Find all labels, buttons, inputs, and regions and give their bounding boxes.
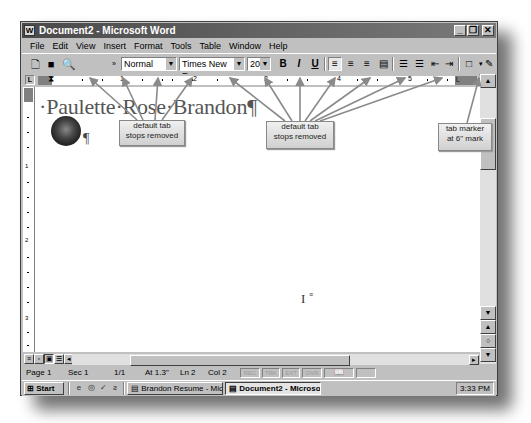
rose-logo-image[interactable] (51, 116, 81, 146)
menu-bar: File Edit View Insert Format Tools Table… (22, 39, 496, 53)
toolbar-separator (458, 57, 460, 71)
highlight-icon[interactable]: ✎ (482, 57, 496, 71)
scroll-right-button[interactable]: ▸ (469, 355, 479, 365)
menu-table[interactable]: Table (195, 39, 225, 53)
status-line: Ln 2 (180, 367, 196, 379)
status-page: Page 1 (26, 367, 51, 379)
justify-icon[interactable]: ▤ (376, 57, 390, 71)
name-heading[interactable]: ·Paulette·Rose·Brandon¶ (39, 94, 257, 120)
callout-default-tab-stops-1: default tab stops removed (119, 120, 185, 146)
horizontal-scroll-thumb[interactable] (130, 355, 350, 366)
ruler-number: 1 (120, 75, 124, 82)
ruler-tick (27, 332, 29, 333)
status-rec[interactable]: REC (240, 368, 260, 378)
title-bar: W Document2 - Microsoft Word _ ❐ ✕ (22, 23, 496, 38)
italic-button[interactable]: I (292, 57, 306, 71)
select-browse-object-button[interactable]: ○ (480, 334, 496, 348)
ruler-tick (427, 79, 428, 81)
previous-page-button[interactable]: ▲ (480, 320, 496, 334)
word-app-icon[interactable]: W (24, 25, 35, 36)
ruler-number: 3 (25, 315, 28, 321)
font-dropdown[interactable]: Times New Roman ▼ (179, 57, 245, 71)
align-center-icon[interactable]: ≡ (344, 57, 358, 71)
vertical-scrollbar[interactable]: ▲ ▼ ▲ ○ ▼ (480, 74, 496, 364)
ruler-tick (27, 197, 29, 198)
ruler-tick (447, 79, 448, 81)
ruler-tick (307, 79, 308, 81)
font-size-dropdown[interactable]: 20 ▼ (247, 57, 271, 71)
decrease-indent-icon[interactable]: ⇤ (428, 57, 442, 71)
new-document-icon[interactable]: 🗋 (28, 57, 42, 71)
close-button[interactable]: ✕ (482, 25, 494, 36)
taskbar-separator (123, 382, 125, 395)
document-page[interactable]: ·Paulette·Rose·Brandon¶ ¶ I ≡ (35, 87, 480, 352)
spelling-status-icon[interactable]: 📖 (324, 368, 354, 378)
font-size-value: 20 (250, 59, 260, 69)
web-layout-view-icon[interactable]: ▫ (34, 354, 44, 364)
numbering-icon[interactable]: ☰ (396, 57, 410, 71)
status-trk[interactable]: TRK (262, 368, 280, 378)
horizontal-ruler[interactable]: L ⧗ 1 2 3 4 5 └ (22, 74, 479, 86)
align-left-icon[interactable]: ≡ (328, 57, 342, 71)
ibeam-cursor-icon: I (301, 291, 305, 307)
indent-marker-icon[interactable]: ⧗ (48, 74, 56, 86)
status-ovr[interactable]: OVR (302, 368, 322, 378)
underline-button[interactable]: U (308, 57, 322, 71)
ruler-tick (27, 272, 29, 273)
horizontal-scrollbar[interactable]: ▸ (72, 354, 479, 365)
internet-explorer-icon[interactable]: e (74, 383, 84, 393)
ruler-tick (27, 182, 29, 183)
outline-view-icon[interactable]: ☰ (54, 354, 64, 364)
restore-button[interactable]: ❐ (467, 25, 479, 36)
toolbar-options-chevron-icon[interactable]: » (107, 57, 121, 71)
status-ext[interactable]: EXT (282, 368, 300, 378)
print-layout-view-icon[interactable]: ▣ (44, 354, 54, 364)
style-dropdown[interactable]: Normal ▼ (121, 57, 177, 71)
channels-icon[interactable]: ƨ (110, 383, 120, 393)
scroll-up-button[interactable]: ▲ (480, 74, 496, 88)
bullets-icon[interactable]: ☰ (412, 57, 426, 71)
scroll-down-button[interactable]: ▼ (480, 306, 496, 320)
ruler-tick (27, 147, 29, 148)
start-button[interactable]: ⊞ Start (24, 382, 64, 395)
outlook-icon[interactable]: ◎ (86, 383, 96, 393)
paragraph-mark: ¶ (83, 131, 89, 147)
taskbar-item-brandon-resume[interactable]: ▤ Brandon Resume - Micros... (127, 382, 223, 395)
save-icon[interactable]: ■ (44, 57, 58, 71)
menu-view[interactable]: View (72, 39, 99, 53)
normal-view-icon[interactable]: ≡ (24, 354, 34, 364)
click-and-type-icon: ≡ (309, 291, 313, 298)
ruler-tick (377, 79, 378, 81)
tab-selector-icon[interactable]: L (25, 75, 35, 85)
align-right-icon[interactable]: ≡ (360, 57, 374, 71)
right-tab-marker-icon[interactable]: └ (454, 77, 460, 86)
ruler-tick (27, 132, 29, 133)
ruler-tick (27, 257, 29, 258)
menu-edit[interactable]: Edit (49, 39, 73, 53)
callout-default-tab-stops-2: default tab stops removed (266, 121, 334, 149)
taskbar-item-document2[interactable]: ▤ Document2 - Microso... (225, 382, 321, 395)
bold-button[interactable]: B (276, 57, 290, 71)
menu-format[interactable]: Format (130, 39, 167, 53)
vertical-ruler: 1 2 3 (23, 87, 35, 352)
ruler-tick (172, 79, 173, 81)
status-blank (356, 368, 376, 378)
ruler-tick (82, 79, 83, 81)
chevron-down-icon: ▼ (260, 58, 270, 70)
menu-tools[interactable]: Tools (166, 39, 195, 53)
ruler-tick (217, 79, 218, 81)
ruler-number: 2 (25, 237, 28, 243)
next-page-button[interactable]: ▼ (480, 348, 496, 362)
minimize-button[interactable]: _ (454, 25, 466, 36)
menu-window[interactable]: Window (225, 39, 265, 53)
status-page-count: 1/1 (114, 367, 125, 379)
clock[interactable]: 3:33 PM (460, 384, 490, 393)
show-desktop-icon[interactable]: ✓ (98, 383, 108, 393)
increase-indent-icon[interactable]: ⇥ (442, 57, 456, 71)
menu-insert[interactable]: Insert (99, 39, 130, 53)
print-preview-icon[interactable]: 🔍 (62, 57, 76, 71)
ruler-tick (27, 117, 29, 118)
ruler-tick (162, 79, 163, 81)
menu-file[interactable]: File (26, 39, 49, 53)
menu-help[interactable]: Help (265, 39, 292, 53)
